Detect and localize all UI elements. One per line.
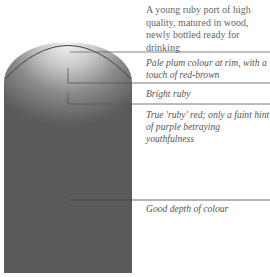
annotation-bright: Bright ruby <box>146 88 270 100</box>
annotation-true-ruby: True 'ruby' red; only a faint hint of pu… <box>146 109 270 145</box>
annotation-depth: Good depth of colour <box>146 203 270 215</box>
wine-colour-diagram: A young ruby port of high quality, matur… <box>0 0 270 277</box>
annotation-rim: Pale plum colour at rim, with a touch of… <box>146 57 270 81</box>
diagram-title: A young ruby port of high quality, matur… <box>146 4 268 54</box>
